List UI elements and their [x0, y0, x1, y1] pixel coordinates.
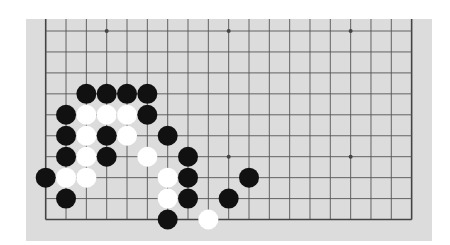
black-stone	[158, 126, 178, 146]
black-stone	[97, 126, 117, 146]
black-stone	[158, 210, 178, 230]
black-stone	[76, 84, 96, 104]
black-stone	[178, 189, 198, 209]
black-stone	[97, 147, 117, 167]
black-stone	[36, 168, 56, 188]
black-stone	[56, 126, 76, 146]
white-stone	[76, 105, 96, 125]
white-stone	[198, 210, 218, 230]
white-stone	[97, 105, 117, 125]
white-stone	[76, 126, 96, 146]
black-stone	[56, 189, 76, 209]
white-stone	[56, 168, 76, 188]
star-point	[227, 155, 231, 159]
black-stone	[178, 168, 198, 188]
black-stone	[56, 105, 76, 125]
star-point	[105, 29, 109, 33]
star-point	[349, 155, 353, 159]
go-board-grid[interactable]	[0, 0, 450, 245]
white-stone	[117, 105, 137, 125]
black-stone	[117, 84, 137, 104]
black-stone	[178, 147, 198, 167]
black-stone	[219, 189, 239, 209]
black-stone	[56, 147, 76, 167]
white-stone	[117, 126, 137, 146]
black-stone	[97, 84, 117, 104]
white-stone	[76, 147, 96, 167]
white-stone	[76, 168, 96, 188]
black-stone	[137, 84, 157, 104]
black-stone	[239, 168, 259, 188]
black-stone	[137, 105, 157, 125]
white-stone	[158, 168, 178, 188]
white-stone	[137, 147, 157, 167]
white-stone	[158, 189, 178, 209]
star-point	[227, 29, 231, 33]
star-point	[349, 29, 353, 33]
